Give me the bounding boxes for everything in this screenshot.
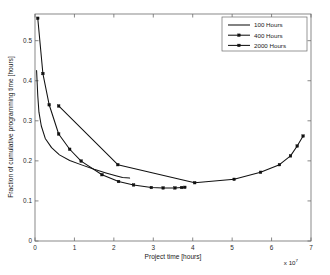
series-400-hours xyxy=(36,17,186,189)
series-line xyxy=(38,18,185,188)
data-point-marker xyxy=(259,171,262,174)
data-point-marker xyxy=(48,103,51,106)
data-point-marker xyxy=(162,187,165,190)
y-tick-label: 0.5 xyxy=(23,37,32,44)
data-point-marker xyxy=(80,160,83,163)
data-point-marker xyxy=(193,181,196,184)
data-point-marker xyxy=(36,17,39,20)
x-axis-exponent-base: x 10 xyxy=(284,259,296,266)
y-axis-title: Fraction of cumulative programming time … xyxy=(7,56,15,198)
legend-label[interactable]: 400 Hours xyxy=(254,32,283,39)
data-point-marker xyxy=(101,173,104,176)
data-point-marker xyxy=(289,155,292,158)
data-point-marker xyxy=(174,187,177,190)
data-point-marker xyxy=(184,186,187,189)
x-tick-label: 3 xyxy=(152,244,156,251)
data-point-marker xyxy=(233,178,236,181)
chart-canvas: 01234567 00.10.20.30.40.5 Project time [… xyxy=(0,0,330,275)
x-tick-label: 0 xyxy=(33,244,37,251)
y-tick-label: 0.1 xyxy=(23,197,32,204)
data-point-marker xyxy=(150,186,153,189)
x-axis-exponent: x 107 xyxy=(284,258,299,266)
legend-label[interactable]: 2000 Hours xyxy=(254,42,286,49)
series-line xyxy=(59,106,303,183)
y-tick-label: 0.3 xyxy=(23,117,32,124)
data-point-marker xyxy=(42,72,45,75)
x-tick-label: 5 xyxy=(230,244,234,251)
chart-legend[interactable]: 100 Hours400 Hours2000 Hours xyxy=(222,17,307,51)
data-point-marker xyxy=(117,163,120,166)
data-point-marker xyxy=(68,148,71,151)
legend-label[interactable]: 100 Hours xyxy=(254,21,283,28)
data-point-marker xyxy=(296,145,299,148)
legend-marker-sample xyxy=(238,34,241,37)
figure-container: 01234567 00.10.20.30.40.5 Project time [… xyxy=(0,0,330,275)
data-point-marker xyxy=(57,105,60,108)
x-tick-label: 6 xyxy=(270,244,274,251)
data-point-marker xyxy=(132,184,135,187)
y-tick-label: 0.2 xyxy=(23,157,32,164)
y-tick-label: 0.4 xyxy=(23,77,32,84)
y-axis-ticks: 00.10.20.30.40.5 xyxy=(23,37,311,244)
series-2000-hours xyxy=(57,105,304,184)
x-axis-exponent-power: 7 xyxy=(296,258,299,263)
x-axis-title: Project time [hours] xyxy=(145,253,202,261)
x-tick-label: 2 xyxy=(112,244,116,251)
data-point-marker xyxy=(117,180,120,183)
data-point-marker xyxy=(180,186,183,189)
x-tick-label: 1 xyxy=(73,244,77,251)
data-point-marker xyxy=(278,163,281,166)
y-tick-label: 0 xyxy=(28,237,32,244)
data-point-marker xyxy=(302,135,305,138)
x-tick-label: 4 xyxy=(191,244,195,251)
data-point-marker xyxy=(57,133,60,136)
legend-marker-sample xyxy=(238,44,241,47)
x-tick-label: 7 xyxy=(309,244,313,251)
